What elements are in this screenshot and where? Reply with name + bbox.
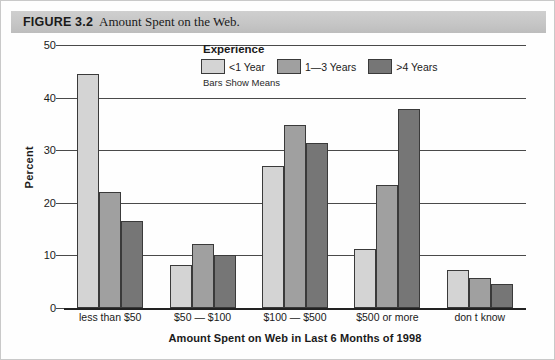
legend-note: Bars Show Means: [203, 77, 471, 88]
bar-2-cat-2: [192, 244, 214, 308]
bar-1-cat-5: [447, 270, 469, 308]
bar-3-cat-4: [398, 109, 420, 308]
bar-3-cat-1: [121, 221, 143, 308]
bar-1-cat-3: [262, 166, 284, 308]
y-axis-title: Percent: [23, 146, 39, 188]
bar-2-cat-1: [99, 192, 121, 308]
bar-1-cat-4: [354, 249, 376, 308]
x-axis-tick-labels: less than $50$50 — $100$100 — $500$500 o…: [64, 311, 526, 329]
y-tick-mark-20: [56, 203, 64, 204]
figure-caption-banner: FIGURE 3.2 Amount Spent on the Web.: [11, 11, 546, 33]
y-tick-mark-0: [56, 308, 64, 309]
y-tick-label-30: 30: [44, 144, 56, 156]
bar-1-cat-2: [170, 265, 192, 308]
legend-swatch-icon-1: [201, 59, 225, 74]
figure-caption-text: Amount Spent on the Web.: [99, 14, 240, 30]
y-tick-label-40: 40: [44, 92, 56, 104]
legend-label-2: 1—3 Years: [305, 61, 356, 73]
figure-frame: FIGURE 3.2 Amount Spent on the Web. 0102…: [0, 0, 555, 360]
bar-2-cat-4: [376, 185, 398, 308]
y-tick-mark-10: [56, 255, 64, 256]
bar-3-cat-3: [306, 143, 328, 308]
legend-items: <1 Year1—3 Years>4 Years: [201, 59, 471, 74]
x-axis-title: Amount Spent on Web in Last 6 Months of …: [64, 332, 526, 344]
y-tick-mark-30: [56, 150, 64, 151]
x-tick-label-5: don t know: [454, 311, 505, 323]
y-tick-mark-50: [56, 45, 64, 46]
legend-swatch-icon-3: [368, 59, 392, 74]
bar-2-cat-5: [469, 278, 491, 309]
legend-label-3: >4 Years: [396, 61, 437, 73]
bar-3-cat-2: [214, 255, 236, 308]
legend-item-2: 1—3 Years: [277, 59, 356, 74]
x-axis-line: [64, 308, 526, 310]
y-tick-label-50: 50: [44, 39, 56, 51]
gridline-40: [64, 98, 526, 99]
y-tick-label-10: 10: [44, 249, 56, 261]
bar-3-cat-5: [491, 284, 513, 308]
y-tick-mark-40: [56, 98, 64, 99]
legend-title: Experience: [203, 43, 471, 55]
chart-legend: Experience <1 Year1—3 Years>4 Years Bars…: [201, 43, 471, 88]
bar-1-cat-1: [77, 74, 99, 308]
legend-swatch-icon-2: [277, 59, 301, 74]
x-tick-label-4: $500 or more: [356, 311, 418, 323]
x-tick-label-2: $50 — $100: [174, 311, 231, 323]
x-tick-label-3: $100 — $500: [263, 311, 326, 323]
bar-2-cat-3: [284, 125, 306, 308]
y-tick-label-20: 20: [44, 197, 56, 209]
legend-item-3: >4 Years: [368, 59, 437, 74]
legend-item-1: <1 Year: [201, 59, 265, 74]
legend-label-1: <1 Year: [229, 61, 265, 73]
x-tick-label-1: less than $50: [79, 311, 141, 323]
